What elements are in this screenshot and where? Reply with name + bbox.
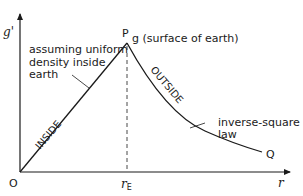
outside-curve — [127, 43, 262, 152]
svg-text:law: law — [218, 128, 237, 141]
inside-note: assuming uniform density inside earth — [29, 43, 128, 81]
gravity-vs-distance-diagram: g' r O P g (surface of earth) Q rE INSID… — [0, 0, 303, 196]
origin-label: O — [9, 177, 18, 190]
outside-note: inverse-square law — [218, 116, 300, 141]
inside-label: INSIDE — [33, 118, 63, 151]
svg-text:assuming uniform: assuming uniform — [29, 43, 128, 56]
peak-annotation: g (surface of earth) — [132, 32, 239, 45]
surface-radius-label: rE — [121, 177, 132, 192]
inside-note-leader — [72, 75, 89, 88]
y-axis-label: g' — [3, 25, 14, 39]
end-label: Q — [266, 148, 275, 161]
peak-label: P — [122, 27, 129, 40]
svg-text:earth: earth — [29, 68, 58, 81]
x-axis-label: r — [278, 176, 285, 190]
